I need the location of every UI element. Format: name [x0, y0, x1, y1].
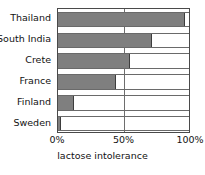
bar-row-france	[58, 74, 189, 90]
x-tick-100: 100%	[176, 134, 203, 146]
x-axis-title: lactose intolerance	[0, 150, 205, 162]
bar-sweden	[58, 117, 61, 131]
plot-area	[57, 8, 190, 133]
category-label-finland: Finland	[0, 97, 51, 107]
bar-finland	[58, 96, 74, 110]
category-label-france: France	[0, 76, 51, 86]
bar-row-thailand	[58, 12, 189, 28]
category-label-south-india: South India	[0, 34, 51, 44]
category-label-thailand: Thailand	[0, 13, 51, 23]
category-label-crete: Crete	[0, 55, 51, 65]
category-axis-labels: Thailand South India Crete France Finlan…	[0, 8, 54, 133]
bar-row-south-india	[58, 33, 189, 49]
lactose-intolerance-bar-chart: Thailand South India Crete France Finlan…	[0, 0, 205, 175]
bar-crete	[58, 54, 130, 68]
category-label-sweden: Sweden	[0, 118, 51, 128]
bar-thailand	[58, 13, 185, 27]
x-tick-50: 50%	[113, 134, 134, 146]
bar-rows	[58, 9, 189, 132]
bar-row-sweden	[58, 116, 189, 132]
bar-south-india	[58, 34, 152, 48]
bar-france	[58, 75, 116, 89]
x-tick-0: 0%	[49, 134, 64, 146]
x-axis-tick-labels: 0% 50% 100%	[57, 134, 190, 148]
bar-row-finland	[58, 95, 189, 111]
bar-row-crete	[58, 53, 189, 69]
